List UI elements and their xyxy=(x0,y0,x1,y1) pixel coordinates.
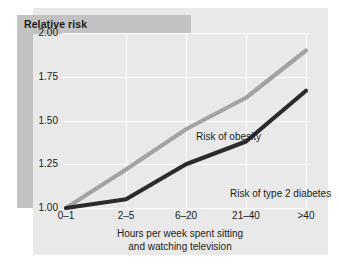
series-lines xyxy=(62,33,310,208)
y-axis-tick-label: 1.75 xyxy=(28,71,58,82)
y-axis-tick-label: 2.00 xyxy=(28,27,58,38)
x-axis-tick-label: >40 xyxy=(298,210,315,221)
x-axis-tick-label: 21–40 xyxy=(232,210,260,221)
y-axis-tick-labels: 1.001.251.501.752.00 xyxy=(25,33,58,208)
x-axis-title: Hours per week spent sitting and watchin… xyxy=(40,228,320,253)
y-axis-tick-label: 1.00 xyxy=(28,202,58,213)
x-axis-tick-label: 2–5 xyxy=(118,210,135,221)
x-axis-title-line-2: and watching television xyxy=(40,241,320,254)
plot-area: Risk of obesity Risk of type 2 diabetes xyxy=(62,33,310,208)
series-label-diabetes: Risk of type 2 diabetes xyxy=(230,188,331,199)
gridline-horizontal xyxy=(62,208,310,209)
figure-container: Relative risk 1.001.251.501.752.00 Risk … xyxy=(0,0,339,267)
x-axis-title-line-1: Hours per week spent sitting xyxy=(40,228,320,241)
x-axis-tick-label: 0–1 xyxy=(58,210,75,221)
x-axis-tick-label: 6–20 xyxy=(175,210,197,221)
series-label-obesity: Risk of obesity xyxy=(196,131,261,142)
line-risk-of-obesity xyxy=(66,51,306,209)
x-axis-tick-labels: 0–12–56–2021–40>40 xyxy=(62,210,310,226)
y-axis-tick-label: 1.50 xyxy=(28,115,58,126)
y-axis-tick-label: 1.25 xyxy=(28,158,58,169)
